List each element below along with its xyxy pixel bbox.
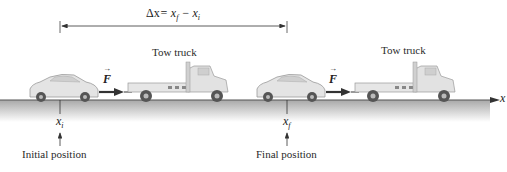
initial-position-caption: Initial position (22, 148, 86, 160)
displacement-equation: Δx= xf − xi (146, 6, 200, 22)
car-icon (257, 74, 325, 102)
ground (0, 97, 500, 122)
force-arrow (326, 88, 359, 96)
final-position-caption: Final position (256, 148, 317, 160)
force-arrow (99, 88, 132, 96)
force-label-2: → F (329, 72, 337, 87)
tow-truck-label-2: Tow truck (381, 44, 426, 56)
car-icon (30, 74, 98, 102)
tow-truck-icon (128, 62, 228, 102)
force-label-1: → F (103, 72, 111, 87)
vector-arrow-icon: → (329, 64, 337, 73)
initial-position-symbol: xi (56, 114, 64, 130)
tow-truck-icon (355, 62, 455, 102)
x-axis-label: x (500, 91, 505, 106)
displacement-bracket (60, 21, 287, 33)
x-axis-arrowhead (490, 97, 500, 103)
tow-truck-label-1: Tow truck (152, 46, 197, 58)
diagram-canvas (0, 0, 507, 172)
scene-final (257, 62, 455, 102)
final-position-symbol: xf (283, 114, 291, 130)
vector-arrow-icon: → (103, 64, 111, 73)
scene-initial (30, 62, 228, 102)
